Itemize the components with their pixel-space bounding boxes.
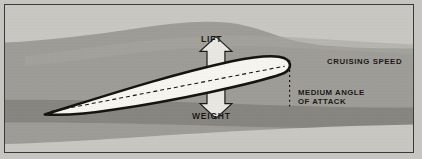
dashed-chord-line-icon (51, 66, 285, 111)
figure-root: LIFT WEIGHT CRUISING SPEED MEDIUM ANGLE … (0, 0, 422, 159)
cruising-speed-label: CRUISING SPEED (327, 57, 402, 66)
diagram-frame: LIFT WEIGHT CRUISING SPEED MEDIUM ANGLE … (4, 4, 414, 153)
lift-label: LIFT (201, 34, 222, 44)
weight-label: WEIGHT (192, 111, 231, 121)
diagram-plate: LIFT WEIGHT CRUISING SPEED MEDIUM ANGLE … (5, 5, 413, 152)
angle-of-attack-label: MEDIUM ANGLE OF ATTACK (298, 88, 365, 106)
airfoil-layer (5, 5, 413, 152)
